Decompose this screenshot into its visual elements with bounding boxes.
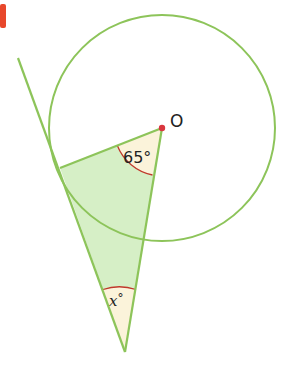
center-angle-label: 65° (123, 148, 151, 167)
question-marker (0, 4, 6, 28)
center-label: O (170, 111, 183, 131)
apex-angle-degree: ° (117, 291, 123, 305)
center-point (159, 125, 165, 131)
geometry-diagram: O 65° x° (0, 0, 283, 373)
